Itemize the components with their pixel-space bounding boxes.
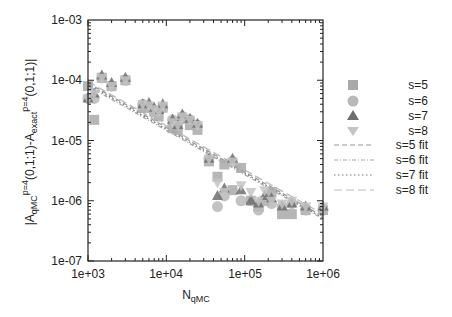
fit-line [88,83,323,216]
y-tick-labels: 1e-03 1e-04 1e-05 1e-06 1e-07 [51,13,82,268]
x-tick-label: 1e+04 [149,267,183,281]
x-tick-label: 1e+05 [228,267,262,281]
legend-marker-triangle-down-icon [347,127,359,136]
data-point-s5 [89,115,99,125]
legend-marker-triangle-up-icon [347,110,359,120]
legend-label-s7: s=7 [408,109,428,123]
y-tick-label: 1e-05 [51,134,82,148]
y-tick-label: 1e-04 [51,73,82,87]
y-tick-label: 1e-07 [51,254,82,268]
data-point-s6 [236,195,247,206]
y-tick-label: 1e-03 [51,13,82,27]
axes [88,20,323,261]
legend-label-s5: s=5 [408,78,428,92]
data-point-s6 [212,201,223,212]
x-tick-label: 1e+03 [71,267,105,281]
legend-marker-circle-icon [348,96,359,107]
x-axis-title: NqMC [182,288,210,304]
y-axis-title: |AqMCp=4(0,1;1)-Aexactp=4(0,1;1)| [20,59,39,226]
plot-frame [88,20,323,261]
legend-label-s7-fit: s=7 fit [396,168,429,182]
legend-label-s6: s=6 [408,94,428,108]
data-point-s5 [236,163,246,173]
legend-label-s8: s=8 [408,124,428,138]
data-point-s8 [212,179,223,189]
y-tick-label: 1e-06 [51,194,82,208]
legend: s=5 s=6 s=7 s=8 s=5 fit s=6 fit s=7 fit … [334,78,429,197]
fit-line [88,82,323,215]
legend-label-s6-fit: s=6 fit [396,153,429,167]
x-tick-labels: 1e+03 1e+04 1e+05 1e+06 [71,267,340,281]
x-tick-label: 1e+06 [306,267,340,281]
legend-label-s5-fit: s=5 fit [396,138,429,152]
chart: 1e-03 1e-04 1e-05 1e-06 1e-07 1e+03 1e+0… [0,0,452,317]
legend-label-s8-fit: s=8 fit [396,183,429,197]
data-point-s5 [287,209,297,219]
legend-marker-square-icon [348,80,358,90]
axis-ticks [88,20,323,261]
